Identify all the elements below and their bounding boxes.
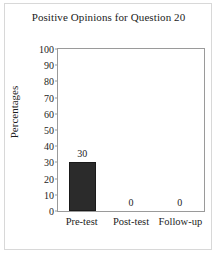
y-tick-label: 80 — [24, 76, 54, 87]
bar-group: 0 — [107, 49, 156, 211]
y-tick-label: 50 — [24, 125, 54, 136]
y-tick-label: 30 — [24, 157, 54, 168]
bar-group: 0 — [155, 49, 204, 211]
plot-inner: 0102030405060708090100 3000 — [58, 49, 204, 211]
bar-value-label: 0 — [107, 197, 156, 208]
y-tick-label: 100 — [24, 44, 54, 55]
plot-area: 0102030405060708090100 3000 — [57, 48, 205, 212]
x-tick-label: Follow-up — [156, 216, 205, 227]
y-tick-label: 90 — [24, 60, 54, 71]
y-tick-label: 40 — [24, 141, 54, 152]
bars-layer: 3000 — [58, 49, 204, 211]
chart-title: Positive Opinions for Question 20 — [0, 11, 217, 23]
bar — [69, 162, 96, 211]
x-tick-label: Pre-test — [57, 216, 106, 227]
y-tick-label: 10 — [24, 189, 54, 200]
x-tick-label: Post-test — [106, 216, 155, 227]
bar-value-label: 30 — [58, 148, 107, 159]
bar-group: 30 — [58, 49, 107, 211]
y-axis-title: Percentages — [8, 72, 20, 152]
y-tick-label: 70 — [24, 92, 54, 103]
y-tick-label: 0 — [24, 206, 54, 217]
y-tick-label: 60 — [24, 108, 54, 119]
y-tick-label: 20 — [24, 173, 54, 184]
bar-value-label: 0 — [155, 197, 204, 208]
chart-screenshot: Positive Opinions for Question 20 Percen… — [0, 0, 217, 254]
